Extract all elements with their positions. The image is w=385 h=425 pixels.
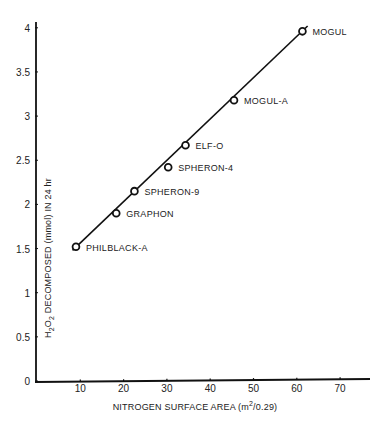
- point-label: PHILBLACK-A: [86, 243, 148, 253]
- x-tick-label: 60: [291, 383, 303, 394]
- y-tick-label: 4: [24, 23, 30, 34]
- x-tick-label: 10: [75, 383, 87, 394]
- y-tick-label: 1: [24, 288, 30, 299]
- y-axis-ticks: 00.511.522.533.54: [16, 23, 38, 387]
- point-label: GRAPHON: [126, 209, 174, 219]
- data-point: PHILBLACK-A: [73, 243, 148, 253]
- y-tick-label: 2.5: [16, 155, 30, 166]
- x-tick-label: 30: [161, 383, 173, 394]
- fit-line: [73, 26, 308, 250]
- point-marker-icon: [231, 97, 238, 104]
- data-point: ELF-O: [182, 141, 223, 151]
- data-point: MOGUL: [299, 27, 347, 37]
- data-point: MOGUL-A: [231, 96, 289, 106]
- point-label: MOGUL: [312, 27, 347, 37]
- regression-line: [73, 26, 308, 250]
- point-marker-icon: [73, 243, 80, 250]
- point-marker-icon: [113, 210, 120, 217]
- point-label: ELF-O: [196, 141, 224, 151]
- point-marker-icon: [182, 142, 189, 149]
- data-point: GRAPHON: [113, 209, 174, 219]
- x-axis-line: [35, 379, 370, 382]
- point-label: SPHERON-4: [178, 163, 233, 173]
- x-tick-label: 70: [335, 383, 347, 394]
- x-axis-title: NITROGEN SURFACE AREA (m2/0.29): [113, 400, 278, 412]
- x-tick-label: 50: [248, 383, 260, 394]
- x-tick-label: 20: [118, 383, 130, 394]
- point-label: MOGUL-A: [244, 96, 288, 106]
- y-tick-label: 3.5: [16, 67, 30, 78]
- point-marker-icon: [299, 28, 306, 35]
- data-points: PHILBLACK-AGRAPHONSPHERON-9SPHERON-4ELF-…: [73, 27, 347, 252]
- chart: 00.511.522.533.54 10203040506070 PHILBLA…: [0, 0, 385, 425]
- y-axis-title: H2O2 DECOMPOSED (mmol) IN 24 hr: [43, 178, 55, 338]
- y-tick-label: 1.5: [16, 244, 30, 255]
- axes: [35, 22, 370, 382]
- data-point: SPHERON-9: [131, 187, 200, 197]
- x-tick-label: 40: [205, 383, 217, 394]
- data-point: SPHERON-4: [165, 163, 234, 173]
- y-tick-label: 0: [24, 376, 30, 387]
- point-label: SPHERON-9: [144, 187, 199, 197]
- y-tick-label: 0.5: [16, 332, 30, 343]
- y-tick-label: 3: [24, 111, 30, 122]
- y-tick-label: 2: [24, 199, 30, 210]
- point-marker-icon: [131, 188, 138, 195]
- point-marker-icon: [165, 164, 172, 171]
